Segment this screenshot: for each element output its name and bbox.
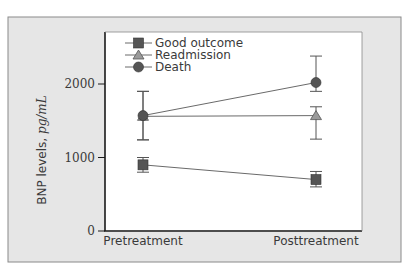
square-marker-icon [311,175,321,185]
y-tick-label: 2000 [64,77,95,91]
y-tick-label: 1000 [64,151,95,165]
circle-marker-icon [311,78,321,88]
circle-marker-icon [134,62,144,72]
plot-area [105,32,362,230]
y-tick-label: 0 [87,224,95,238]
square-marker-icon [134,38,144,48]
square-marker-icon [138,160,148,170]
x-tick-label: Posttreatment [273,234,359,248]
circle-marker-icon [138,111,148,121]
y-axis-label: BNP levels, pg/mL [35,95,49,204]
bnp-chart: 010002000 PretreatmentPosttreatment BNP … [0,0,411,268]
x-tick-label: Pretreatment [103,234,183,248]
legend-label: Death [155,60,191,74]
